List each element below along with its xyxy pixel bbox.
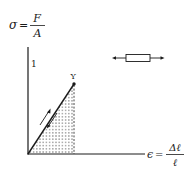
sigma-symbol: σ [9,18,18,32]
elongation-symbol: Δℓ [168,142,180,153]
area-symbol: A [33,27,42,40]
epsilon-symbol: ϵ [147,148,153,161]
x-axis-label: ϵ = Δℓ ℓ [147,142,184,168]
tensile-specimen-icon [112,55,165,62]
equals-sign: = [19,19,28,32]
force-symbol: F [32,12,41,25]
yield-point [72,82,75,85]
equals-sign: = [155,149,163,160]
y-axis-tick-label: 1 [31,59,37,69]
y-axis-label: σ = F A [9,12,45,40]
length-symbol: ℓ [173,157,177,168]
yield-point-label: Y [70,72,77,81]
stress-strain-diagram: σ = F A 1 Y ϵ = Δℓ ℓ [0,0,192,176]
